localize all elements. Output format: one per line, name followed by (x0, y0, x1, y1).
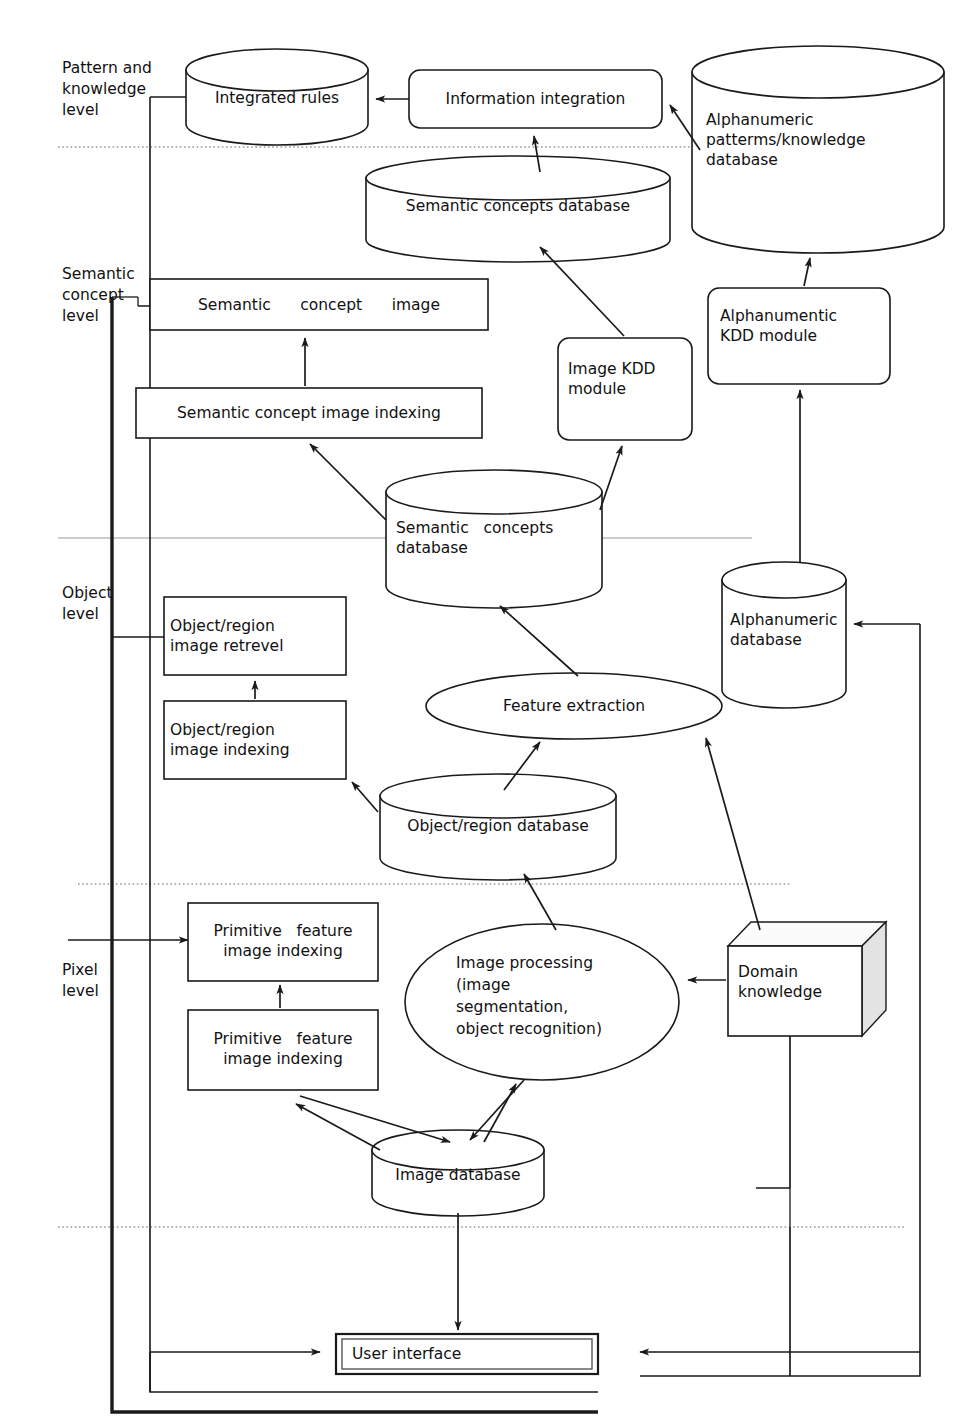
node-semantic-concept-image (150, 279, 488, 330)
edge-semantic-concepts-mid-to-indexing (310, 444, 386, 520)
architecture-diagram: Pattern and knowledge level Semantic con… (0, 0, 957, 1425)
edge-semantic-concepts-mid-to-image-kdd (600, 446, 622, 510)
node-domain-knowledge (728, 922, 886, 1036)
level-label-pattern: Pattern and knowledge level (62, 58, 152, 121)
node-primitive-feature-image-indexing-lower (188, 1010, 378, 1090)
node-object-region-image-retrevel (164, 597, 346, 675)
level-label-object: Object level (62, 583, 112, 625)
node-feature-extraction (426, 673, 722, 739)
node-user-interface[interactable] (336, 1334, 598, 1374)
node-image-processing (405, 924, 679, 1080)
diagram-canvas (0, 0, 957, 1425)
edge-image-processing-to-object-region-db (524, 874, 556, 930)
node-primitive-feature-image-indexing-upper (188, 903, 378, 981)
node-semantic-concept-image-indexing (136, 388, 482, 438)
node-alphanumeric-database (722, 562, 846, 708)
edge-image-processing-to-image-db (470, 1080, 524, 1140)
node-semantic-concepts-database-top (366, 156, 670, 262)
node-alphanumentic-kdd-module (708, 288, 890, 384)
node-image-database (372, 1130, 544, 1216)
level-label-pixel: Pixel level (62, 960, 99, 1002)
edge-feature-extraction-to-semantic-concepts-mid (500, 606, 578, 676)
edge-domain-knowledge-to-feature-extraction (706, 738, 760, 930)
node-integrated-rules (186, 49, 368, 145)
edge-object-region-db-to-object-indexing (352, 782, 378, 812)
node-alphanumeric-patterns-knowledge-database (692, 46, 944, 253)
node-image-kdd-module (558, 338, 692, 440)
node-information-integration (409, 70, 662, 128)
node-semantic-concepts-database-mid (386, 470, 602, 608)
step-connector-domain (756, 1188, 790, 1227)
edge-image-db-to-primitive-lower (296, 1104, 380, 1150)
edge-alphanumentic-kdd-to-alphanumeric-patterns (804, 258, 810, 286)
level-label-semantic: Semantic concept level (62, 264, 135, 327)
node-object-region-image-indexing (164, 701, 346, 779)
node-object-region-database (380, 774, 616, 880)
